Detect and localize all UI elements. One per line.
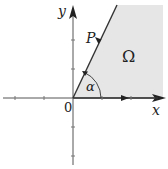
x-axis-label: x	[152, 102, 160, 118]
origin-label: 0	[64, 100, 72, 115]
diagram-canvas: y x 0 P α Ω	[0, 0, 168, 169]
region-label: Ω	[122, 47, 135, 66]
y-axis-label: y	[57, 3, 67, 19]
angle-label: α	[86, 79, 95, 94]
ray-label: P	[85, 30, 96, 46]
